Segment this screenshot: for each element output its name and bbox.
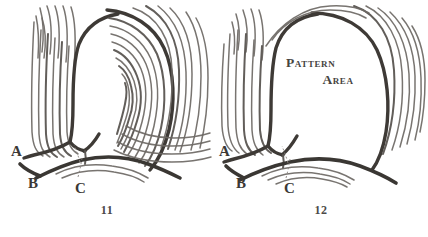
fingerprint-figure-plate: A B C 11 — [0, 0, 428, 237]
fig12-between-type-lines — [262, 167, 354, 187]
pattern-area-label-line2: Area — [286, 72, 390, 88]
fig12-label-A: A — [219, 144, 230, 159]
fig11-label-B: B — [28, 176, 38, 191]
fig11-label-C: C — [75, 181, 86, 196]
fig11-between-type-lines — [56, 165, 148, 182]
fig12-type-line-lower — [226, 159, 396, 183]
fig12-type-line-arch — [312, 13, 388, 170]
figure-panel-12: Pattern Area A B C 12 — [214, 0, 428, 237]
pattern-area-label-line1: Pattern — [286, 55, 390, 71]
figure-panel-11: A B C 11 — [0, 0, 214, 237]
fig11-caption: 11 — [0, 203, 214, 218]
fig12-caption: 12 — [214, 203, 428, 218]
figure-12-drawing — [214, 0, 428, 210]
fig11-upper-left-ridges — [36, 6, 75, 66]
fig12-label-B: B — [236, 176, 246, 191]
fig11-type-line-upper — [70, 14, 118, 142]
fig12-label-C: C — [284, 181, 295, 196]
fig11-label-A: A — [11, 144, 22, 159]
